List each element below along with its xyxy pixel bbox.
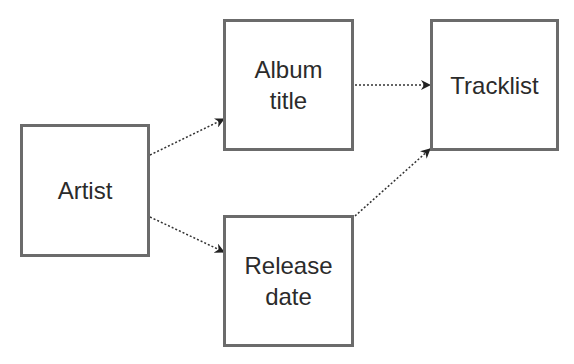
diagram-canvas: Artist Album title Tracklist Release dat… [0,0,574,364]
node-album-title: Album title [223,19,354,151]
node-label-line: title [254,85,322,116]
node-label-line: Album [254,54,322,85]
node-label: Album title [254,54,322,116]
node-label: Tracklist [450,70,538,101]
node-artist: Artist [20,124,150,257]
node-tracklist: Tracklist [430,19,559,151]
node-label-line: Tracklist [450,70,538,101]
edge-artist-to-release-date [150,217,224,252]
node-label-line: Artist [58,175,113,206]
node-release-date: Release date [223,215,354,347]
node-label: Release date [244,250,332,312]
edge-artist-to-album-title [150,119,224,155]
edge-release-date-to-tracklist [355,149,430,216]
node-label-line: date [244,281,332,312]
node-label-line: Release [244,250,332,281]
node-label: Artist [58,175,113,206]
